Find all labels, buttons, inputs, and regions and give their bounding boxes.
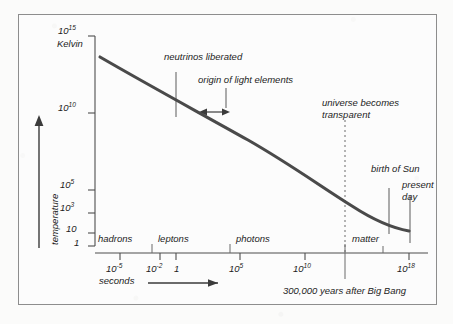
y-tick-label-0: 1015 [58,24,76,37]
x-tick-label-4: 1010 [293,262,311,275]
seconds-direction-arrow [148,279,218,287]
x-tick-label-2: 1 [174,262,179,275]
y-tick-label-4: 10 [66,222,77,235]
y-axis-unit-label: Kelvin [57,39,83,50]
era-label-photons: photons [236,234,270,245]
y-tick-label-2: 105 [60,178,74,191]
annotation-present-day-line2: day [402,192,417,203]
x-axis-ticks [120,253,409,260]
y-tick-label-1: 1010 [58,101,76,114]
era-label-leptons: leptons [158,234,189,245]
annotation-universe-becomes-transparent-line2: transparent [322,110,370,121]
y-tick-label-3: 103 [60,201,74,214]
y-axis-name-label: temperature [50,194,61,245]
era-band-separators [152,244,383,253]
figure-page: 1015 Kelvin 1010 105 103 10 1 temperatur… [0,0,453,324]
era-label-matter: matter [352,234,379,245]
annotation-origin-of-light-elements: origin of light elements [198,75,293,86]
annotation-present-day-line1: present [402,180,434,191]
x-tick-label-0: 10-5 [106,262,122,275]
annotation-neutrinos-liberated: neutrinos liberated [164,52,242,63]
annotation-birth-of-sun: birth of Sun [371,164,420,175]
x-tick-label-1: 10-2 [146,262,162,275]
y-tick-label-5: 1 [74,236,79,249]
x-tick-label-5: 1018 [397,262,415,275]
annotation-universe-becomes-transparent-line1: universe becomes [322,98,399,109]
y-axis-ticks [88,36,95,246]
temperature-direction-arrow [35,115,44,248]
big-bang-caption: 300,000 years after Big Bang [283,286,406,297]
era-label-hadrons: hadrons [98,234,132,245]
x-tick-label-3: 105 [229,262,243,275]
x-axis-name-label: seconds [99,276,134,287]
